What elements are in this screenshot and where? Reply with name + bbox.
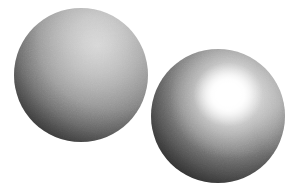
matte-sphere-top-rimlight bbox=[14, 8, 148, 142]
sphere-scene bbox=[0, 0, 295, 192]
glossy-sphere bbox=[151, 49, 285, 183]
glossy-sphere-rimlight bbox=[151, 49, 285, 183]
matte-sphere bbox=[14, 8, 148, 142]
